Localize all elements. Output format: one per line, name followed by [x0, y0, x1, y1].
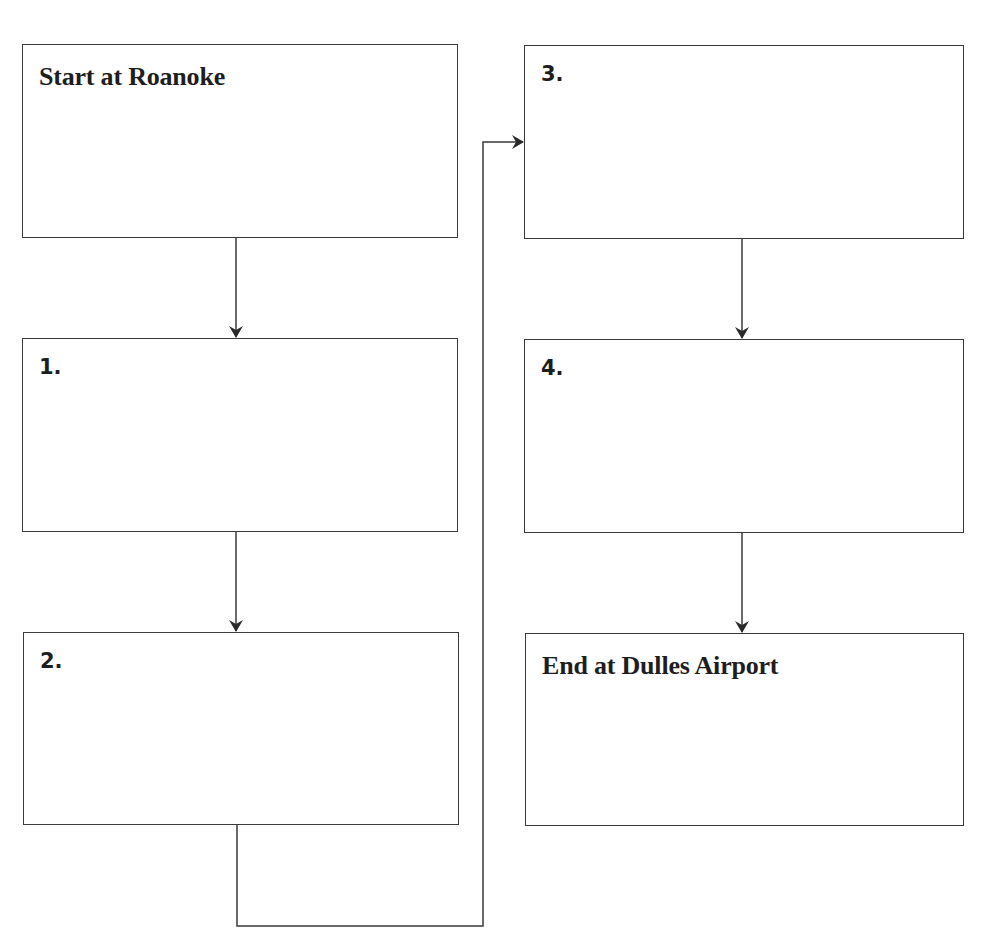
box-label: End at Dulles Airport	[542, 651, 778, 681]
box-label: 4.	[541, 356, 564, 380]
flow-box-step-4: 4.	[524, 339, 964, 533]
box-label: 1.	[39, 355, 62, 379]
box-label: 3.	[541, 62, 564, 86]
box-label: 2.	[40, 649, 63, 673]
flow-box-step-2: 2.	[23, 632, 459, 825]
flow-box-step-1: 1.	[22, 338, 458, 532]
flow-box-step-3: 3.	[524, 45, 964, 239]
flow-box-start: Start at Roanoke	[22, 44, 458, 238]
flow-box-end: End at Dulles Airport	[525, 633, 964, 826]
box-label: Start at Roanoke	[39, 62, 225, 92]
